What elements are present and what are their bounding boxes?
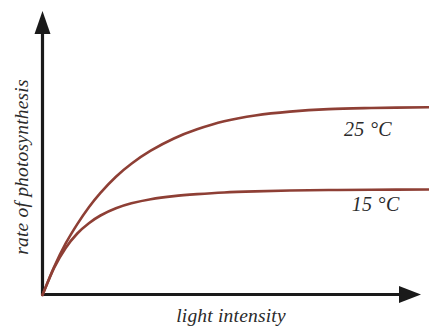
chart-background [0,0,429,333]
chart-canvas: rate of photosynthesis light intensity 2… [0,0,429,333]
y-axis-title: rate of photosynthesis [11,79,32,255]
x-axis-title: light intensity [176,305,286,326]
series-label-15c: 15 °C [352,193,400,215]
photosynthesis-light-response-chart: rate of photosynthesis light intensity 2… [0,0,429,333]
series-label-25c: 25 °C [344,118,392,140]
